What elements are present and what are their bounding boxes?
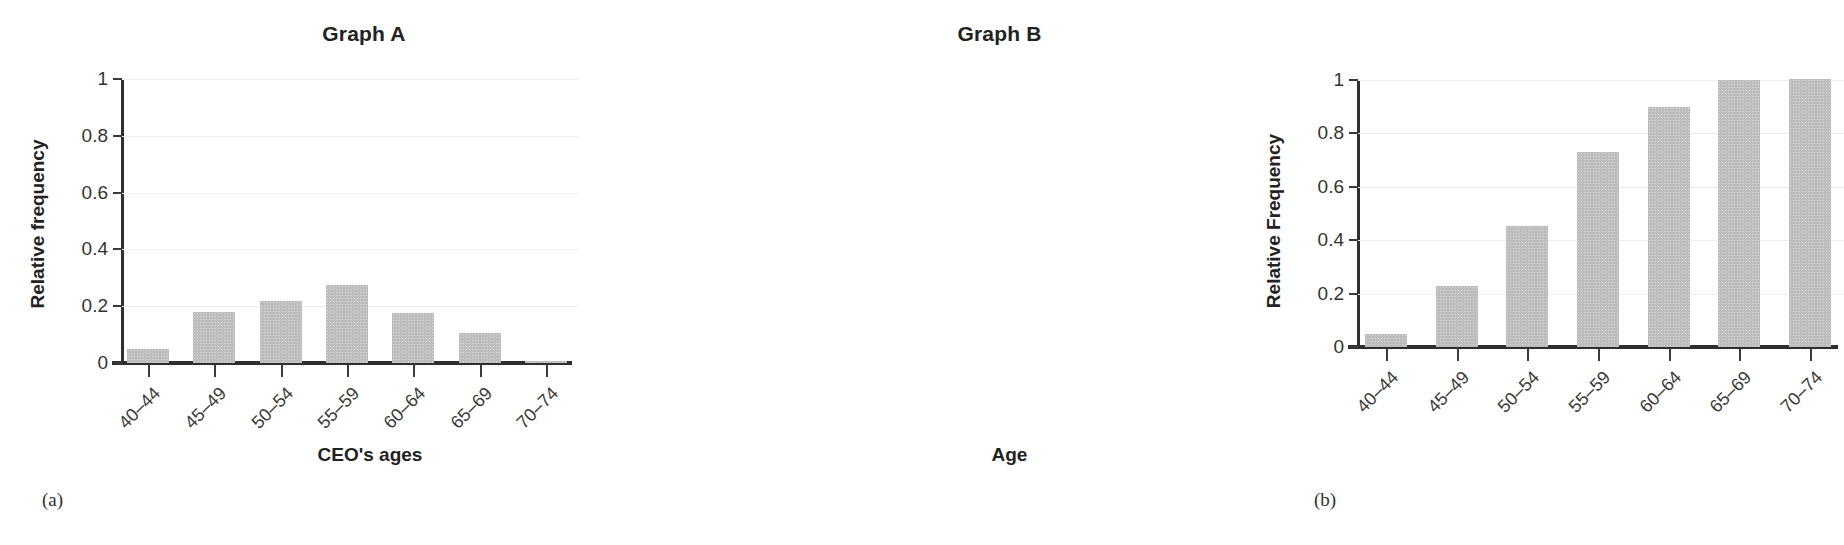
x-tick-mark-a-3 bbox=[347, 364, 349, 377]
subcaption-b: (b) bbox=[1314, 489, 1336, 511]
x-tick-label-b-0: 40–44 bbox=[1341, 367, 1403, 429]
x-tick-label-a-2: 50–54 bbox=[236, 383, 298, 445]
subcaption-a: (a) bbox=[42, 489, 63, 511]
gridline-a-2 bbox=[122, 249, 578, 250]
gridline-a-5 bbox=[122, 79, 578, 80]
y-tick-label-a-2: 0.4 bbox=[82, 238, 108, 260]
y-tick-mark-a-4 bbox=[113, 135, 122, 137]
x-axis-title-a: CEO's ages bbox=[0, 444, 688, 466]
x-tick-mark-a-2 bbox=[281, 364, 283, 377]
panel-graph-a: Graph A Relative frequency 00.20.40.60.8… bbox=[0, 0, 636, 545]
x-tick-label-a-6: 70–74 bbox=[501, 383, 563, 445]
y-tick-mark-b-4 bbox=[1349, 132, 1358, 134]
bar-b-60-64 bbox=[1648, 107, 1690, 347]
x-tick-label-b-4: 60–64 bbox=[1624, 367, 1686, 429]
x-tick-mark-a-6 bbox=[546, 364, 548, 377]
x-tick-mark-b-0 bbox=[1386, 348, 1388, 361]
x-tick-mark-b-3 bbox=[1598, 348, 1600, 361]
bar-a-50-54 bbox=[260, 301, 302, 363]
x-tick-label-a-0: 40–44 bbox=[103, 383, 165, 445]
y-tick-label-b-5: 1 bbox=[1333, 69, 1344, 91]
gridline-a-4 bbox=[122, 136, 578, 137]
x-axis-title-b: Age bbox=[636, 444, 1327, 466]
chart-title-b: Graph B bbox=[636, 22, 1317, 46]
x-tick-label-b-3: 55–59 bbox=[1553, 367, 1615, 429]
panel-graph-b: Graph B Relative Frequency 00.20.40.60.8… bbox=[636, 0, 1271, 545]
x-tick-mark-b-5 bbox=[1739, 348, 1741, 361]
y-tick-label-a-0: 0 bbox=[97, 352, 108, 374]
x-tick-label-b-5: 65–69 bbox=[1695, 367, 1757, 429]
gridline-b-4 bbox=[1358, 133, 1844, 134]
y-tick-label-b-0: 0 bbox=[1333, 336, 1344, 358]
bar-b-40-44 bbox=[1365, 334, 1407, 347]
plot-area-a: 00.20.40.60.8140–4445–4950–5455–5960–646… bbox=[122, 79, 572, 363]
plot-area-b: 00.20.40.60.8140–4445–4950–5455–5960–646… bbox=[1358, 80, 1838, 347]
y-tick-label-b-1: 0.2 bbox=[1318, 282, 1344, 304]
y-tick-label-b-2: 0.4 bbox=[1318, 229, 1344, 251]
x-tick-label-b-2: 50–54 bbox=[1483, 367, 1545, 429]
y-tick-mark-b-1 bbox=[1349, 293, 1358, 295]
y-axis-line-a bbox=[121, 79, 124, 363]
x-tick-mark-a-4 bbox=[413, 364, 415, 377]
y-axis-title-b: Relative Frequency bbox=[1263, 131, 1285, 311]
x-tick-mark-b-1 bbox=[1457, 348, 1459, 361]
y-tick-mark-a-0 bbox=[113, 362, 122, 364]
y-tick-label-b-3: 0.6 bbox=[1318, 175, 1344, 197]
y-tick-mark-b-3 bbox=[1349, 186, 1358, 188]
x-tick-label-a-3: 55–59 bbox=[302, 383, 364, 445]
bar-a-45-49 bbox=[193, 312, 235, 363]
bar-b-70-74 bbox=[1789, 79, 1831, 347]
x-tick-mark-b-6 bbox=[1810, 348, 1812, 361]
bar-b-50-54 bbox=[1506, 226, 1548, 347]
x-tick-label-a-5: 65–69 bbox=[435, 383, 497, 445]
y-axis-line-b bbox=[1357, 80, 1360, 347]
y-tick-label-a-1: 0.2 bbox=[82, 295, 108, 317]
y-tick-label-a-5: 1 bbox=[97, 68, 108, 90]
x-tick-mark-b-2 bbox=[1527, 348, 1529, 361]
bar-a-70-74 bbox=[525, 361, 567, 363]
bar-a-65-69 bbox=[459, 333, 501, 363]
x-tick-mark-a-1 bbox=[214, 364, 216, 377]
y-tick-mark-a-2 bbox=[113, 248, 122, 250]
y-tick-mark-b-2 bbox=[1349, 239, 1358, 241]
x-tick-mark-a-0 bbox=[148, 364, 150, 377]
x-tick-mark-b-4 bbox=[1669, 348, 1671, 361]
y-tick-label-a-4: 0.8 bbox=[82, 124, 108, 146]
x-tick-mark-a-5 bbox=[480, 364, 482, 377]
bar-a-60-64 bbox=[392, 313, 434, 363]
bar-b-45-49 bbox=[1436, 286, 1478, 347]
bar-b-65-69 bbox=[1718, 80, 1760, 347]
bar-a-55-59 bbox=[326, 285, 368, 363]
x-tick-label-a-4: 60–64 bbox=[369, 383, 431, 445]
y-tick-mark-a-3 bbox=[113, 192, 122, 194]
x-tick-label-b-6: 70–74 bbox=[1765, 367, 1827, 429]
y-tick-mark-b-5 bbox=[1349, 79, 1358, 81]
y-tick-label-b-4: 0.8 bbox=[1318, 122, 1344, 144]
y-tick-mark-a-5 bbox=[113, 78, 122, 80]
gridline-b-5 bbox=[1358, 80, 1844, 81]
y-tick-label-a-3: 0.6 bbox=[82, 181, 108, 203]
y-axis-title-a: Relative frequency bbox=[27, 134, 49, 314]
gridline-a-3 bbox=[122, 193, 578, 194]
bar-a-40-44 bbox=[127, 349, 169, 363]
x-tick-label-a-1: 45–49 bbox=[170, 383, 232, 445]
bar-b-55-59 bbox=[1577, 152, 1619, 347]
x-tick-label-b-1: 45–49 bbox=[1412, 367, 1474, 429]
y-tick-mark-a-1 bbox=[113, 305, 122, 307]
chart-title-a: Graph A bbox=[0, 22, 682, 46]
y-tick-mark-b-0 bbox=[1349, 346, 1358, 348]
